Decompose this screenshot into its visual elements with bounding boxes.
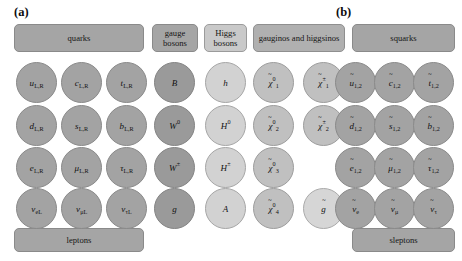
- particle-node-neutralino-1: χ01: [253, 62, 294, 103]
- particle-node-quark-s: sL,R: [61, 105, 102, 146]
- footer-leptons: leptons: [14, 228, 144, 252]
- particle-symbol-squark-up: u1,2: [349, 77, 361, 87]
- particle-symbol-boson-gluon: g: [172, 203, 177, 213]
- particle-symbol-chargino-2: χ±2: [318, 120, 328, 130]
- particle-node-neutralino-4: χ04: [253, 188, 294, 229]
- particle-node-boson-w0: W0: [154, 105, 195, 146]
- header-gauge-bosons: gauge bosons: [152, 24, 198, 52]
- particle-node-boson-b: B: [154, 62, 195, 103]
- particle-symbol-nu-mu: νμL: [76, 203, 87, 213]
- header-higgs-bosons: Higgs bosons: [204, 24, 247, 52]
- panel-label-b: (b): [336, 5, 351, 20]
- particle-symbol-u: uL,R: [30, 77, 44, 87]
- particle-symbol-neutralino-1: χ01: [268, 77, 278, 87]
- particle-node-slepton-stau: τ1,2: [413, 147, 454, 188]
- particle-symbol-smuon: μ1,2: [388, 162, 400, 172]
- particle-node-lepton-mu: μL,R: [61, 147, 102, 188]
- particle-node-lepton-tau: τL,R: [106, 147, 147, 188]
- particle-symbol-sneutrino-tau: ντ: [430, 203, 437, 213]
- particle-symbol-higgs-H0: H0: [221, 120, 231, 130]
- particle-node-squark-up: u1,2: [335, 62, 376, 103]
- particle-symbol-sneutrino-mu: νμ: [391, 203, 398, 213]
- particle-symbol-stau: τ1,2: [428, 162, 439, 172]
- particle-node-quark-c: cL,R: [61, 62, 102, 103]
- particle-symbol-gluino: g: [321, 203, 326, 213]
- particle-symbol-squark-charm: c1,2: [389, 77, 401, 87]
- header-quarks: quarks: [14, 24, 144, 52]
- particle-symbol-neutralino-3: χ03: [268, 162, 278, 172]
- particle-symbol-t: tL,R: [121, 77, 133, 87]
- particle-node-higgs-A: A: [205, 188, 246, 229]
- particle-node-squark-bottom: b1,2: [413, 105, 454, 146]
- particle-node-squark-top: t1,2: [413, 62, 454, 103]
- particle-node-quark-d: dL,R: [16, 105, 57, 146]
- particle-symbol-nu-e: νeL: [31, 203, 42, 213]
- particle-symbol-neutralino-4: χ04: [268, 203, 278, 213]
- header-squarks: squarks: [352, 24, 455, 52]
- particle-symbol-b: bL,R: [120, 120, 134, 130]
- particle-node-boson-gluon: g: [154, 188, 195, 229]
- particle-node-neutrino-tau: ντL: [106, 188, 147, 229]
- particle-node-quark-u: uL,R: [16, 62, 57, 103]
- particle-node-squark-down: d1,2: [335, 105, 376, 146]
- particle-content-diagram: (a) (b) quarks gauge bosons Higgs bosons…: [0, 0, 462, 261]
- particle-symbol-boson-b: B: [172, 77, 178, 87]
- particle-symbol-mu: μL,R: [75, 162, 89, 172]
- particle-node-higgs-h: h: [205, 62, 246, 103]
- particle-node-neutrino-mu: νμL: [61, 188, 102, 229]
- particle-node-sneutrino-mu: νμ: [374, 188, 415, 229]
- particle-node-higgs-H0: H0: [205, 105, 246, 146]
- particle-node-squark-charm: c1,2: [374, 62, 415, 103]
- particle-symbol-boson-wpm: W±: [169, 162, 180, 172]
- particle-symbol-selectron: e1,2: [350, 162, 362, 172]
- particle-symbol-squark-bottom: b1,2: [427, 120, 439, 130]
- particle-node-lepton-e: eL,R: [16, 147, 57, 188]
- particle-node-sneutrino-e: νe: [335, 188, 376, 229]
- particle-symbol-e: eL,R: [30, 162, 43, 172]
- particle-node-slepton-selectron: e1,2: [335, 147, 376, 188]
- particle-symbol-boson-w0: W0: [169, 120, 180, 130]
- particle-symbol-d: dL,R: [30, 120, 44, 130]
- particle-node-neutralino-3: χ03: [253, 147, 294, 188]
- particle-node-squark-strange: s1,2: [374, 105, 415, 146]
- particle-symbol-chargino-1: χ±1: [318, 77, 328, 87]
- header-gauginos-higgsinos: gauginos and higgsinos: [253, 24, 345, 52]
- particle-symbol-higgs-h: h: [223, 77, 228, 87]
- particle-symbol-c: cL,R: [75, 77, 88, 87]
- particle-node-slepton-smuon: μ1,2: [374, 147, 415, 188]
- particle-symbol-squark-strange: s1,2: [389, 120, 400, 130]
- particle-node-neutrino-e: νeL: [16, 188, 57, 229]
- panel-label-a: (a): [14, 5, 29, 20]
- particle-node-quark-b: bL,R: [106, 105, 147, 146]
- footer-sleptons: sleptons: [352, 228, 455, 252]
- particle-symbol-neutralino-2: χ02: [268, 120, 278, 130]
- particle-node-boson-wpm: W±: [154, 147, 195, 188]
- particle-node-neutralino-2: χ02: [253, 105, 294, 146]
- particle-node-quark-t: tL,R: [106, 62, 147, 103]
- particle-node-sneutrino-tau: ντ: [413, 188, 454, 229]
- particle-symbol-higgs-Hpm: H±: [221, 162, 231, 172]
- particle-symbol-sneutrino-e: νe: [352, 203, 359, 213]
- particle-symbol-s: sL,R: [75, 120, 88, 130]
- particle-symbol-higgs-A: A: [223, 203, 229, 213]
- particle-symbol-squark-down: d1,2: [349, 120, 361, 130]
- particle-symbol-squark-top: t1,2: [428, 77, 438, 87]
- particle-symbol-tau: τL,R: [120, 162, 133, 172]
- particle-node-higgs-Hpm: H±: [205, 147, 246, 188]
- particle-symbol-nu-tau: ντL: [121, 203, 131, 213]
